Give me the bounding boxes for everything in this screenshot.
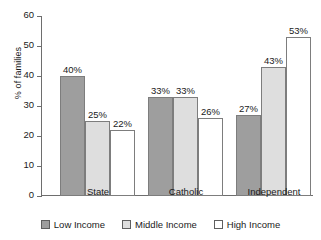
bar-value-label: 43%: [264, 55, 283, 66]
bar: 26%: [198, 118, 223, 196]
y-axis-tick-label: 40: [23, 69, 34, 80]
legend-swatch: [214, 220, 223, 229]
chart-legend: Low IncomeMiddle IncomeHigh Income: [0, 219, 321, 230]
y-axis-tick: 20: [7, 136, 41, 137]
legend-label: High Income: [227, 219, 280, 230]
y-axis-tick-mark: [37, 196, 41, 197]
bar: 27%: [236, 115, 261, 196]
x-axis-label: State: [87, 186, 109, 197]
y-axis-tick-label: 60: [23, 9, 34, 20]
bar-group: 40%25%22%: [60, 16, 136, 196]
bar-value-label: 25%: [88, 109, 107, 120]
bar-value-label: 53%: [289, 25, 308, 36]
y-axis-tick: 0: [7, 196, 41, 197]
bar: 22%: [110, 130, 135, 196]
y-axis-tick: 50: [7, 46, 41, 47]
bar: 53%: [286, 37, 311, 196]
legend-item[interactable]: High Income: [214, 219, 280, 230]
bar-group: 33%33%26%: [148, 16, 224, 196]
bar-value-label: 26%: [201, 106, 220, 117]
plot-area: 0102030405060 40%25%22%33%33%26%27%43%53…: [41, 16, 313, 196]
y-axis-tick: 40: [7, 76, 41, 77]
bar: 25%: [85, 121, 110, 196]
bar-value-label: 33%: [151, 85, 170, 96]
bar: 33%: [173, 97, 198, 196]
bars-layer: 40%25%22%33%33%26%27%43%53%: [41, 16, 313, 196]
bar: 40%: [60, 76, 85, 196]
y-axis-tick: 10: [7, 166, 41, 167]
x-axis-label: Catholic: [169, 186, 203, 197]
legend-swatch: [41, 220, 50, 229]
y-axis-tick-label: 30: [23, 99, 34, 110]
y-axis-tick: 60: [7, 16, 41, 17]
y-axis-tick-label: 10: [23, 159, 34, 170]
bar-chart: % of families 0102030405060 40%25%22%33%…: [0, 0, 321, 240]
bar-group: 27%43%53%: [236, 16, 312, 196]
bar-value-label: 40%: [63, 64, 82, 75]
legend-item[interactable]: Low Income: [41, 219, 105, 230]
bar: 43%: [261, 67, 286, 196]
legend-label: Low Income: [54, 219, 105, 230]
y-axis-title: % of families: [13, 18, 23, 128]
bar: 33%: [148, 97, 173, 196]
y-axis-tick-label: 50: [23, 39, 34, 50]
y-axis-tick-label: 20: [23, 129, 34, 140]
bar-value-label: 27%: [239, 103, 258, 114]
legend-swatch: [122, 220, 131, 229]
bar-value-label: 33%: [176, 85, 195, 96]
legend-item[interactable]: Middle Income: [122, 219, 197, 230]
x-axis-label: Independent: [248, 186, 301, 197]
y-axis-tick: 30: [7, 106, 41, 107]
legend-label: Middle Income: [135, 219, 197, 230]
bar-value-label: 22%: [113, 118, 132, 129]
y-axis-tick-label: 0: [29, 189, 34, 200]
